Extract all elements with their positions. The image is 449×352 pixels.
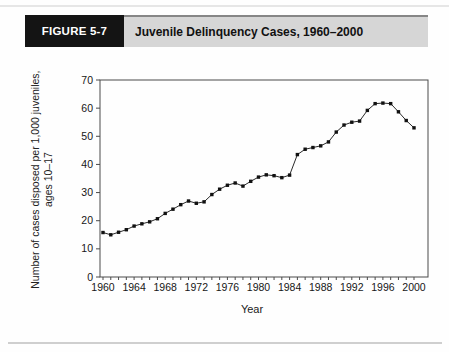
figure-header: FIGURE 5-7 Juvenile Delinquency Cases, 1… [25,15,428,47]
data-point-marker [171,207,174,210]
line-chart: 0102030405060701960196419681972197619801… [62,68,442,318]
figure-title: Juvenile Delinquency Cases, 1960–2000 [124,15,428,47]
data-point-marker [412,126,415,129]
data-point-marker [218,187,221,190]
y-axis-title-line1: Number of cases disposed per 1,000 juven… [29,70,41,288]
x-tick-label: 1988 [309,281,333,293]
x-tick-label: 1968 [154,281,178,293]
data-point-marker [132,224,135,227]
data-point-marker [226,184,229,187]
y-tick-label: 60 [81,102,93,114]
data-point-marker [397,110,400,113]
x-tick-label: 1960 [91,281,115,293]
x-tick-label: 1972 [185,281,209,293]
y-axis-title: Number of cases disposed per 1,000 juven… [29,64,54,296]
data-point-marker [389,102,392,105]
data-point-marker [288,173,291,176]
data-point-marker [296,153,299,156]
x-tick-label: 1964 [122,281,146,293]
y-tick-label: 40 [81,158,93,170]
textbook-figure-page: FIGURE 5-7 Juvenile Delinquency Cases, 1… [0,0,449,352]
figure-number-badge: FIGURE 5-7 [25,15,124,47]
x-tick-label: 1984 [278,281,302,293]
data-line [103,103,414,235]
data-point-marker [280,176,283,179]
y-tick-label: 70 [81,74,93,86]
data-point-marker [327,140,330,143]
y-tick-label: 20 [81,214,93,226]
bottom-page-rule [8,342,442,344]
data-point-marker [101,231,104,234]
data-point-marker [233,181,236,184]
data-point-marker [117,231,120,234]
data-point-marker [140,222,143,225]
x-tick-label: 1992 [340,281,364,293]
data-point-marker [272,174,275,177]
data-point-marker [358,119,361,122]
data-point-marker [311,146,314,149]
data-point-marker [303,148,306,151]
data-point-marker [179,203,182,206]
data-point-marker [319,144,322,147]
x-tick-label: 1980 [247,281,271,293]
y-tick-label: 10 [81,242,93,254]
data-point-marker [342,123,345,126]
data-point-marker [350,121,353,124]
data-point-marker [241,184,244,187]
data-point-marker [249,180,252,183]
data-point-marker [164,212,167,215]
x-axis-title: Year [62,303,442,315]
x-tick-label: 1996 [371,281,395,293]
data-point-marker [187,199,190,202]
data-point-marker [373,102,376,105]
data-point-marker [125,228,128,231]
data-point-marker [156,217,159,220]
data-point-marker [109,233,112,236]
data-point-marker [335,130,338,133]
data-point-marker [195,202,198,205]
data-point-marker [202,200,205,203]
data-point-marker [148,220,151,223]
y-tick-label: 50 [81,130,93,142]
x-tick-label: 2000 [402,281,426,293]
top-page-rule [0,5,449,7]
data-point-marker [405,119,408,122]
data-point-marker [210,193,213,196]
data-point-marker [366,109,369,112]
data-point-marker [381,101,384,104]
y-axis-title-line2: ages 10–17 [42,152,54,207]
data-point-marker [265,173,268,176]
y-tick-label: 30 [81,186,93,198]
data-point-marker [257,175,260,178]
x-tick-label: 1976 [216,281,240,293]
